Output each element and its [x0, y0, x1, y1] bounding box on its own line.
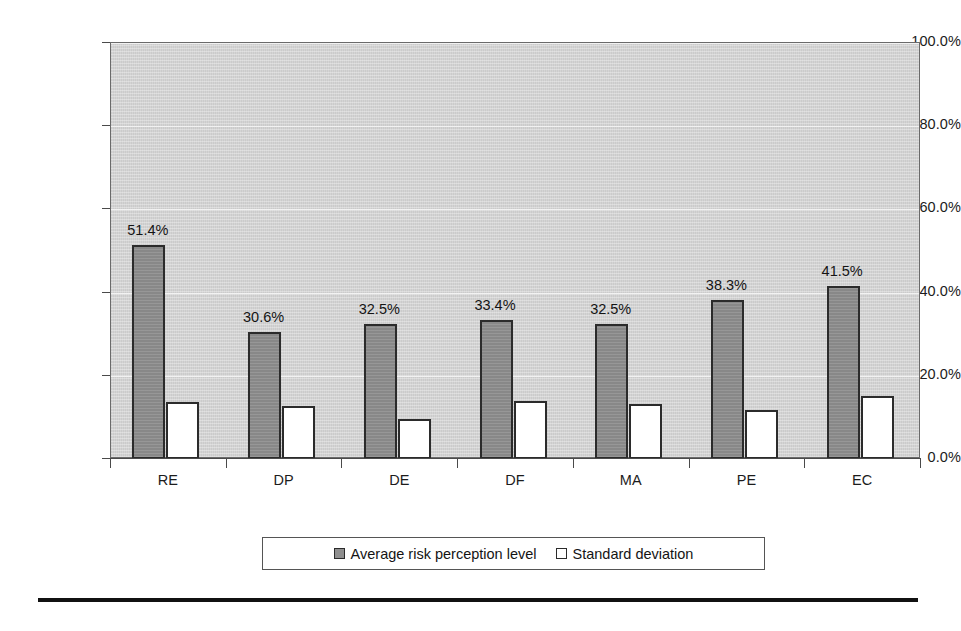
x-axis-line — [110, 458, 921, 459]
bar — [398, 419, 431, 459]
bar-value-label: 32.5% — [324, 301, 434, 317]
bar — [480, 320, 513, 459]
bar — [711, 300, 744, 459]
legend-entry-average: Average risk perception level — [334, 546, 537, 562]
x-axis-tick-mark — [920, 459, 921, 468]
bar — [166, 402, 199, 459]
legend-label-standard-deviation: Standard deviation — [573, 546, 694, 562]
chart-legend: Average risk perception level Standard d… — [262, 537, 765, 570]
bar-value-label: 32.5% — [556, 301, 666, 317]
x-axis-tick-mark — [804, 459, 805, 468]
bar — [827, 286, 860, 459]
legend-swatch-icon-average — [334, 548, 345, 559]
x-axis-tick-mark — [573, 459, 574, 468]
bottom-rule-divider — [38, 598, 918, 602]
bar-value-label: 30.6% — [209, 309, 319, 325]
x-axis-tick-mark — [457, 459, 458, 468]
x-axis-tick-label: MA — [571, 472, 691, 488]
bar — [861, 396, 894, 459]
plot-background-texture — [111, 43, 919, 457]
legend-swatch-icon-standard-deviation — [556, 548, 567, 559]
legend-entry-standard-deviation: Standard deviation — [556, 546, 694, 562]
x-axis-tick-mark — [110, 459, 111, 468]
bar-value-label: 38.3% — [671, 277, 781, 293]
x-axis-tick-label: RE — [108, 472, 228, 488]
legend-label-average: Average risk perception level — [351, 546, 537, 562]
bar — [282, 406, 315, 459]
gridline — [111, 376, 919, 377]
bar — [629, 404, 662, 459]
x-axis-tick-label: PE — [686, 472, 806, 488]
chart-figure: 100.0%80.0%60.0%40.0%20.0%0.0% REDPDEDFM… — [0, 0, 961, 631]
plot-area — [110, 42, 920, 458]
bar — [745, 410, 778, 459]
bar — [248, 332, 281, 459]
gridline — [111, 126, 919, 127]
bar-value-label: 41.5% — [787, 263, 897, 279]
bar — [595, 324, 628, 459]
x-axis-tick-mark — [226, 459, 227, 468]
gridline — [111, 43, 919, 44]
gridline — [111, 293, 919, 294]
bar-value-label: 33.4% — [440, 297, 550, 313]
x-axis-tick-label: DP — [224, 472, 344, 488]
gridline — [111, 209, 919, 210]
x-axis-tick-label: EC — [802, 472, 922, 488]
bar — [132, 245, 165, 459]
bar — [364, 324, 397, 459]
x-axis-tick-mark — [689, 459, 690, 468]
x-axis-tick-label: DE — [339, 472, 459, 488]
bar-value-label: 51.4% — [93, 222, 203, 238]
x-axis-tick-label: DF — [455, 472, 575, 488]
x-axis-tick-mark — [341, 459, 342, 468]
bar — [514, 401, 547, 459]
